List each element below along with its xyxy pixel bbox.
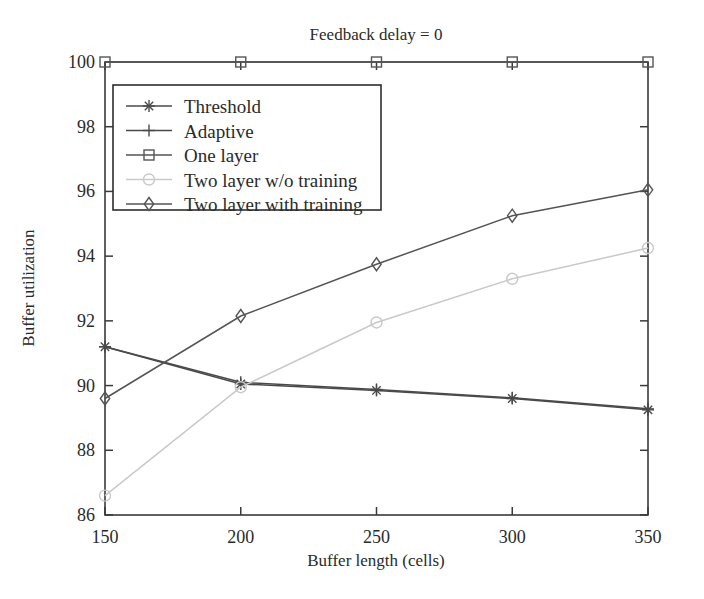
series-line [105,190,648,399]
legend-label: One layer [184,145,259,166]
x-tick-label: 350 [635,527,662,547]
series-two-layer-w-o-training [100,243,654,502]
legend-label: Adaptive [184,121,254,142]
y-tick-label: 100 [68,52,95,72]
series-two-layer-with-training [100,183,652,405]
y-tick-label: 90 [77,376,95,396]
legend-label: Threshold [184,96,262,117]
series-line [105,248,648,496]
chart-legend: ThresholdAdaptiveOne layerTwo layer w/o … [113,85,381,215]
x-axis-label: Buffer length (cells) [307,551,445,570]
y-tick-label: 98 [77,117,95,137]
legend-label: Two layer w/o training [184,170,358,191]
x-tick-label: 300 [499,527,526,547]
x-tick-label: 250 [363,527,390,547]
x-tick-label: 150 [92,527,119,547]
chart-title: Feedback delay = 0 [310,25,443,44]
y-tick-label: 96 [77,181,95,201]
chart-figure: Feedback delay = 0 86889092949698100 150… [0,0,704,599]
y-tick-label: 94 [77,246,95,266]
line-chart: Feedback delay = 0 86889092949698100 150… [0,0,704,599]
series-line [105,347,648,410]
legend-label: Two layer with training [184,194,363,215]
series-line [105,347,648,409]
y-tick-label: 92 [77,311,95,331]
y-tick-label: 88 [77,440,95,460]
y-tick-label: 86 [77,505,95,525]
y-axis-label: Buffer utilization [19,229,38,347]
x-tick-label: 200 [227,527,254,547]
